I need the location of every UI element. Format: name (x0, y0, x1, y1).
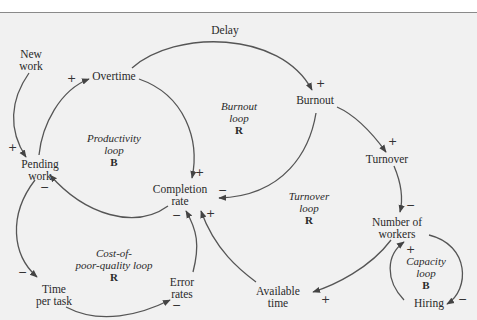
link-completion-pending (50, 175, 168, 218)
polarity-available-completion: + (206, 208, 215, 219)
var-hiring: Hiring (414, 297, 444, 309)
link-available-completion (201, 211, 256, 282)
polarity-hiring-workers: + (406, 244, 415, 255)
polarity-turnover-workers: − (406, 200, 415, 211)
link-turnover-workers (394, 166, 402, 212)
link-overtime-completion (139, 79, 194, 178)
loop-capacity: CapacityloopB (406, 255, 446, 291)
polarity-newwork-pending: + (8, 142, 17, 153)
polarity-workers-hiring: − (458, 294, 467, 305)
link-pending-overtime (39, 79, 89, 155)
var-time-per-task: Timeper task (36, 283, 72, 307)
polarity-workers-available: + (321, 294, 330, 305)
polarity-burnout-completion: − (218, 185, 227, 196)
var-delay: Delay (211, 24, 238, 36)
link-overtime-burnout (132, 42, 312, 90)
var-error-rates: Errorrates (170, 276, 194, 300)
polarity-pending-overtime: + (67, 73, 76, 84)
var-number-of-workers: Number ofworkers (372, 216, 422, 240)
polarity-overtime-completion: + (195, 167, 204, 178)
loop-turnover: TurnoverloopR (289, 190, 329, 226)
polarity-burnout-turnover: + (388, 136, 397, 147)
polarity-completion-pending: − (40, 182, 49, 193)
var-burnout: Burnout (296, 94, 334, 106)
link-workers-available (313, 240, 391, 292)
loop-productivity: ProductivityloopB (87, 132, 141, 168)
link-burnout-turnover (337, 107, 386, 152)
link-error-completion (186, 211, 197, 272)
var-pending-work: Pendingwork (21, 158, 59, 182)
polarity-pending-timepertask: − (18, 267, 27, 278)
loop-burnout: BurnoutloopR (221, 100, 257, 136)
polarity-overtime-burnout: + (316, 78, 325, 89)
polarity-error-completion: − (172, 210, 181, 221)
link-hiring-workers (390, 242, 404, 300)
link-pending-timepertask (16, 180, 37, 277)
var-available-time: Availabletime (256, 285, 300, 309)
link-timepertask-error (66, 300, 170, 317)
loop-cost-of-poor-quality: Cost-of-poor-quality loopR (75, 247, 152, 283)
var-completion-rate: Completionrate (153, 183, 207, 207)
var-turnover: Turnover (366, 153, 408, 165)
var-overtime: Overtime (92, 70, 135, 82)
var-new-work: Newwork (19, 48, 43, 72)
polarity-timepertask-error: − (172, 300, 181, 311)
